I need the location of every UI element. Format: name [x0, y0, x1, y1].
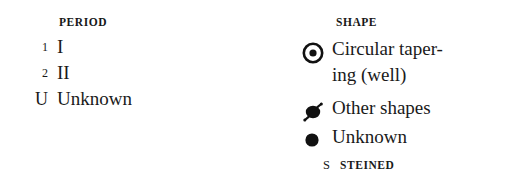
legend-label-period-2: II [57, 62, 70, 84]
legend-row-shape-unknown: Unknown [296, 124, 407, 152]
legend-row-period-2: 2 II [18, 62, 70, 84]
legend-label-circular-tapering: Circular taper- ing (well) [330, 36, 443, 88]
filled-dot-icon [296, 124, 330, 152]
legend-row-period-unknown: U Unknown [18, 88, 132, 110]
legend-label-shape-unknown: Unknown [330, 124, 407, 150]
legend-row-period-1: 1 I [18, 36, 63, 58]
legend-marker-period-1: 1 [18, 36, 57, 58]
spiked-dot-icon [296, 95, 330, 123]
legend-marker-period-unknown: U [18, 88, 57, 110]
legend-marker-steined: S [296, 158, 334, 173]
legend-label-steined: STEINED [334, 159, 394, 171]
bullseye-icon [296, 36, 330, 64]
legend-row-other-shapes: Other shapes [296, 95, 431, 123]
legend-header-shape: SHAPE [336, 16, 377, 28]
legend-label-other-shapes: Other shapes [330, 95, 431, 121]
legend-label-period-1: I [57, 36, 63, 58]
legend-header-period: PERIOD [59, 16, 107, 28]
legend-row-circular-tapering: Circular taper- ing (well) [296, 36, 443, 88]
legend-marker-period-2: 2 [18, 62, 57, 84]
legend-label-period-unknown: Unknown [57, 88, 132, 110]
map-legend: PERIOD 1 I 2 II U Unknown SHAPE Circular… [0, 0, 508, 193]
legend-row-steined: S STEINED [296, 158, 394, 173]
